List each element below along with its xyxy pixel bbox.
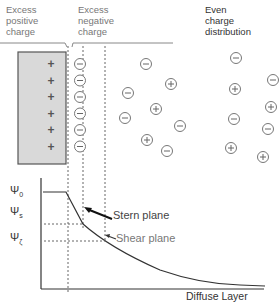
stern-plane-label: Stern plane: [113, 209, 169, 221]
svg-text:+: +: [47, 140, 54, 154]
header-even-distribution: Even charge distribution: [205, 4, 251, 37]
psi-zeta-label: Ψζ: [10, 231, 22, 245]
psi-s-label: Ψs: [10, 205, 23, 219]
svg-text:+: +: [47, 74, 54, 88]
svg-text:+: +: [47, 57, 54, 71]
header-excess-positive: Excess positive charge: [6, 4, 38, 37]
double-layer-diagram: ++++++: [0, 0, 279, 303]
svg-text:+: +: [47, 107, 54, 121]
psi-0-label: Ψ0: [10, 184, 23, 198]
svg-text:+: +: [47, 123, 54, 137]
header-excess-negative: Excess negative charge: [78, 4, 114, 37]
diffuse-layer-label: Diffuse Layer: [186, 290, 248, 302]
svg-text:+: +: [47, 90, 54, 104]
electrode-surface: [18, 52, 66, 164]
shear-plane-label: Shear plane: [116, 232, 175, 244]
